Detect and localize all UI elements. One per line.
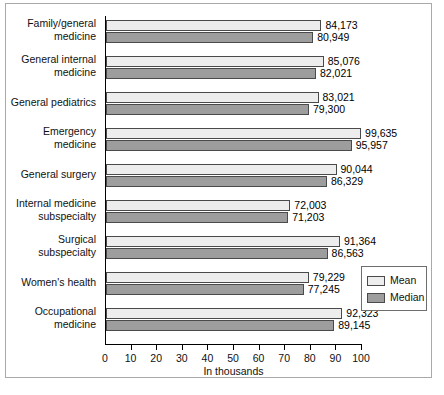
bar-value-mean: 91,364 — [340, 236, 376, 247]
bar-median — [106, 32, 313, 43]
bar-chart-plot: Family/generalmedicine84,17380,949Genera… — [6, 4, 433, 379]
bar-value-mean: 99,635 — [361, 128, 397, 139]
bar-group: Internal medicinesubspecialty72,00371,20… — [6, 198, 433, 234]
bar-value-mean: 85,076 — [324, 56, 360, 67]
x-tick — [131, 345, 132, 350]
x-axis-title: In thousands — [105, 365, 362, 377]
bar-median — [106, 176, 327, 187]
legend-swatch-median — [367, 293, 385, 303]
category-label: General pediatrics — [6, 96, 96, 109]
bar-value-median: 77,245 — [304, 284, 340, 295]
category-label: Occupationalmedicine — [6, 305, 96, 330]
bar-value-mean: 90,044 — [337, 164, 373, 175]
bar-value-mean: 83,021 — [319, 92, 355, 103]
bar-group: General surgery90,04486,329 — [6, 162, 433, 198]
bar-value-mean: 79,229 — [309, 272, 345, 283]
bar-mean — [106, 164, 337, 175]
bar-median — [106, 248, 328, 259]
x-tick — [156, 345, 157, 350]
bar-mean — [106, 92, 319, 103]
category-label: Emergencymedicine — [6, 125, 96, 150]
bar-value-median: 80,949 — [313, 32, 349, 43]
legend-label-mean: Mean — [390, 275, 416, 286]
x-tick — [361, 345, 362, 350]
bar-value-median: 89,145 — [334, 320, 370, 331]
legend-swatch-mean — [367, 276, 385, 286]
x-tick — [233, 345, 234, 350]
bar-median — [106, 68, 316, 79]
bar-value-median: 82,021 — [316, 68, 352, 79]
bar-median — [106, 140, 352, 151]
category-label: Internal medicinesubspecialty — [6, 197, 96, 222]
bar-value-median: 79,300 — [309, 104, 345, 115]
bar-mean — [106, 272, 309, 283]
bar-mean — [106, 56, 324, 67]
bar-value-mean: 84,173 — [321, 20, 357, 31]
bar-median — [106, 212, 288, 223]
x-tick — [310, 345, 311, 350]
bar-median — [106, 104, 309, 115]
chart-legend: Mean Median — [361, 266, 427, 311]
bar-group: Occupationalmedicine92,32389,145 — [6, 306, 433, 342]
x-tick — [259, 345, 260, 350]
chart-figure: Family/generalmedicine84,17380,949Genera… — [5, 3, 432, 378]
category-label: Women's health — [6, 276, 96, 289]
bar-mean — [106, 20, 321, 31]
legend-label-median: Median — [390, 292, 424, 303]
category-label: Family/generalmedicine — [6, 17, 96, 42]
x-tick — [207, 345, 208, 350]
category-label: General surgery — [6, 168, 96, 181]
bar-mean — [106, 200, 290, 211]
bar-value-median: 86,329 — [327, 176, 363, 187]
bar-median — [106, 320, 334, 331]
x-tick — [335, 345, 336, 350]
bar-mean — [106, 308, 342, 319]
bar-group: Family/generalmedicine84,17380,949 — [6, 18, 433, 54]
bar-value-median: 95,957 — [352, 140, 388, 151]
x-tick-label: 100 — [346, 352, 376, 364]
bar-mean — [106, 128, 361, 139]
bar-group: Emergencymedicine99,63595,957 — [6, 126, 433, 162]
bar-value-mean: 72,003 — [290, 200, 326, 211]
bar-group: General internalmedicine85,07682,021 — [6, 54, 433, 90]
bar-value-median: 71,203 — [288, 212, 324, 223]
category-label: General internalmedicine — [6, 53, 96, 78]
x-tick — [284, 345, 285, 350]
legend-item-median: Median — [367, 291, 424, 304]
bar-mean — [106, 236, 340, 247]
bar-group: General pediatrics83,02179,300 — [6, 90, 433, 126]
x-tick — [182, 345, 183, 350]
bar-median — [106, 284, 304, 295]
bar-value-median: 86,563 — [328, 248, 364, 259]
category-label: Surgicalsubspecialty — [6, 233, 96, 258]
legend-item-mean: Mean — [367, 274, 416, 287]
bar-group: Surgicalsubspecialty91,36486,563 — [6, 234, 433, 270]
